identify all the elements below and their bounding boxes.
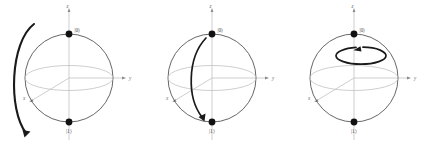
bloch-sphere-panel-3: z y x |0⟩ |1⟩: [285, 0, 428, 155]
pole-dot-zero: [351, 31, 358, 38]
ket-zero-label: |0⟩: [75, 27, 81, 33]
x-axis-label: x: [307, 95, 311, 101]
pole-dot-zero: [66, 31, 73, 38]
bloch-sphere-panel-2: z y x |0⟩ |1⟩: [143, 0, 286, 155]
ket-zero-label: |0⟩: [218, 27, 224, 33]
rotation-arrow-head: [23, 130, 31, 138]
y-axis-arrow-tip: [265, 77, 269, 80]
ket-one-label: |1⟩: [66, 128, 72, 134]
pole-dot-one: [351, 119, 358, 126]
ket-one-label: |1⟩: [209, 128, 215, 134]
pole-dot-one: [209, 119, 216, 126]
y-axis-label: y: [271, 75, 275, 81]
x-axis-label: x: [22, 95, 26, 101]
bloch-sphere-panel-1: z y x |0⟩ |1⟩: [0, 0, 143, 155]
rotation-arc: [191, 38, 206, 117]
y-axis-arrow-tip: [122, 77, 126, 80]
bloch-sphere-figure: z y x |0⟩ |1⟩ z y x |0⟩ |1⟩: [0, 0, 428, 155]
y-axis-arrow-tip: [407, 77, 411, 80]
pole-dot-one: [66, 119, 73, 126]
rotation-arc: [14, 24, 34, 133]
pole-dot-zero: [209, 31, 216, 38]
ket-zero-label: |0⟩: [360, 27, 366, 33]
z-axis-label: z: [209, 3, 212, 9]
x-axis-label: x: [165, 95, 169, 101]
z-axis-label: z: [66, 3, 69, 9]
y-axis-label: y: [128, 75, 132, 81]
ket-one-label: |1⟩: [351, 128, 357, 134]
z-axis-label: z: [351, 3, 354, 9]
y-axis-label: y: [413, 75, 417, 81]
